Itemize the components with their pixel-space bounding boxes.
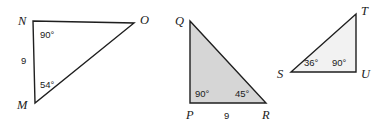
triangle-mno: N O M 90° 54° 9	[16, 13, 149, 112]
angle-label-u-90: 90°	[332, 57, 347, 68]
vertex-label-o: O	[140, 13, 149, 27]
angle-label-m-54: 54°	[40, 79, 55, 90]
side-label-pr-9: 9	[224, 110, 229, 121]
angle-label-r-45: 45°	[235, 88, 250, 99]
vertex-label-t: T	[361, 4, 369, 18]
vertex-label-s: S	[277, 67, 284, 81]
geometry-figure: N O M 90° 54° 9 Q P R 90° 45° 9 T S U 36…	[0, 0, 386, 125]
vertex-label-p: P	[185, 108, 194, 122]
vertex-label-q: Q	[175, 14, 184, 28]
vertex-label-u: U	[361, 67, 371, 81]
triangle-stu: T S U 36° 90°	[277, 4, 371, 81]
vertex-label-n: N	[17, 14, 27, 28]
angle-label-p-90: 90°	[195, 88, 210, 99]
side-label-mn-9: 9	[21, 55, 26, 66]
triangle-pqr: Q P R 90° 45° 9	[175, 14, 270, 122]
angle-label-n-90: 90°	[40, 29, 55, 40]
angle-label-s-36: 36°	[304, 57, 319, 68]
triangles-diagram: N O M 90° 54° 9 Q P R 90° 45° 9 T S U 36…	[0, 0, 386, 125]
vertex-label-r: R	[261, 108, 270, 122]
vertex-label-m: M	[16, 98, 28, 112]
